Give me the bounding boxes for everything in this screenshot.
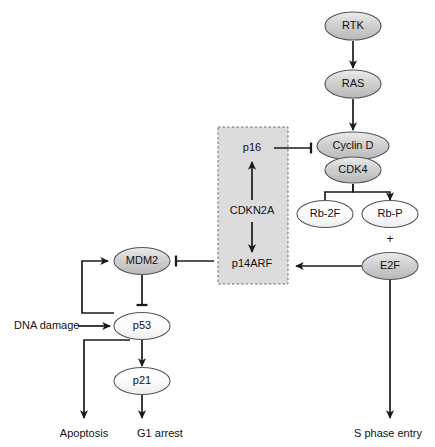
node-ras[interactable]: RAS [325, 70, 381, 98]
node-shape-p53 [114, 313, 170, 340]
node-e2f[interactable]: E2F [362, 253, 418, 280]
pathway-svg: RTKRASCyclin DCDK4Rb-2FRb-PE2FMDM2p53p21… [0, 0, 435, 447]
node-p53[interactable]: p53 [114, 313, 170, 340]
node-shape-cdk4 [325, 157, 381, 183]
node-shape-rbp [362, 201, 418, 228]
node-shape-mdm2 [114, 248, 170, 275]
node-shape-ras [325, 70, 381, 98]
node-rbp[interactable]: Rb-P [362, 201, 418, 228]
label-rbp-e2f-plus: + [386, 232, 393, 246]
node-shape-cyclind [317, 132, 389, 160]
node-cyclind[interactable]: Cyclin D [317, 132, 389, 160]
edge-p53-to-mdm2 [82, 261, 114, 313]
node-rb2f[interactable]: Rb-2F [297, 201, 353, 228]
label-s-phase-entry: S phase entry [354, 427, 422, 439]
node-shape-rb2f [297, 201, 353, 228]
pathway-diagram: RTKRASCyclin DCDK4Rb-2FRb-PE2FMDM2p53p21… [0, 0, 435, 447]
node-shape-p21 [114, 368, 170, 395]
label-apoptosis: Apoptosis [60, 427, 109, 439]
node-shape-e2f [362, 253, 418, 280]
label-g1-arrest: G1 arrest [137, 427, 183, 439]
cdkn2a-region [218, 127, 288, 284]
node-p21[interactable]: p21 [114, 368, 170, 395]
edge-cdk4-to-rb2f [325, 184, 353, 200]
node-cdk4[interactable]: CDK4 [325, 157, 381, 183]
edge-cdk4-to-rbp [353, 184, 390, 200]
node-shape-rtk [325, 12, 381, 40]
node-rtk[interactable]: RTK [325, 12, 381, 40]
cdkn2a-region-group [218, 127, 288, 284]
label-dna-damage: DNA damage [14, 319, 79, 331]
node-mdm2[interactable]: MDM2 [114, 248, 170, 275]
